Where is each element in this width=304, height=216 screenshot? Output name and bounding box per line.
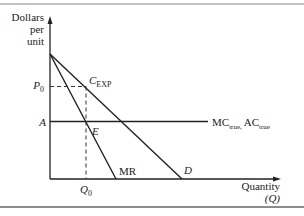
label-a: A (38, 116, 46, 128)
y-axis-arrow-icon (48, 16, 53, 24)
label-mr: MR (119, 165, 137, 177)
label-d: D (183, 164, 192, 176)
label-c-exp: CEXP (89, 74, 112, 89)
label-e: E (91, 125, 99, 137)
ylabel-line-2: per (30, 23, 44, 35)
series-line-mr (50, 54, 116, 179)
series-layer (50, 54, 208, 179)
ylabel-line-1: Dollars (12, 11, 44, 23)
label-p0: P0 (32, 79, 44, 94)
guide-layer (50, 87, 86, 180)
series-line-d (50, 54, 182, 179)
label-q0: Q0 (80, 183, 92, 198)
xlabel-line-1: Quantity (242, 180, 281, 192)
xlabel-line-2: (Q) (265, 192, 281, 205)
ylabel-line-3: unit (27, 35, 44, 47)
chart-root: Dollars per unit Quantity (Q) P0 A Q0 CE… (0, 0, 304, 216)
label-mc-ac: MCtrue,ACtrue (212, 116, 270, 131)
